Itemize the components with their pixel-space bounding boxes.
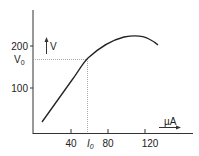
- y-tick-label-100: 100: [11, 83, 28, 94]
- v-arrow-head: [45, 37, 49, 42]
- i0-label: I0: [87, 138, 94, 150]
- ua-arrow-head: [176, 126, 181, 130]
- x-tick-label-120: 120: [142, 138, 159, 149]
- x-axis-label: µA: [164, 116, 177, 127]
- x-tick-label-80: 80: [102, 138, 114, 149]
- chart: 200 100 40 80 120 V0 I0 V µA: [0, 0, 199, 156]
- v0-label: V0: [14, 54, 25, 66]
- x-tick-label-40: 40: [65, 138, 77, 149]
- y-tick-label-200: 200: [11, 41, 28, 52]
- data-curve: [42, 36, 158, 122]
- y-axis-label: V: [50, 41, 57, 52]
